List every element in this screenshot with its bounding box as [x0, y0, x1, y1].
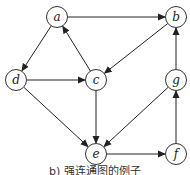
- node-c: c: [86, 70, 107, 91]
- figure-caption: b) 强连通图的例子: [0, 165, 190, 175]
- edge-c-a: [63, 26, 91, 71]
- node-label: a: [53, 10, 60, 24]
- node-f: f: [166, 144, 187, 165]
- node-label: c: [93, 73, 100, 87]
- edge-b-c: [105, 23, 168, 73]
- node-d: d: [6, 70, 27, 91]
- edge-a-d: [22, 26, 51, 71]
- node-label: g: [172, 73, 180, 87]
- node-label: b: [172, 10, 180, 24]
- graph-canvas: abcdgef: [0, 0, 190, 175]
- node-g: g: [166, 70, 187, 91]
- node-label: d: [12, 73, 20, 87]
- node-b: b: [166, 7, 187, 28]
- node-a: a: [47, 7, 68, 28]
- node-label: e: [92, 147, 99, 161]
- node-e: e: [86, 144, 107, 165]
- edge-g-e: [104, 87, 168, 146]
- edge-d-e: [24, 87, 88, 146]
